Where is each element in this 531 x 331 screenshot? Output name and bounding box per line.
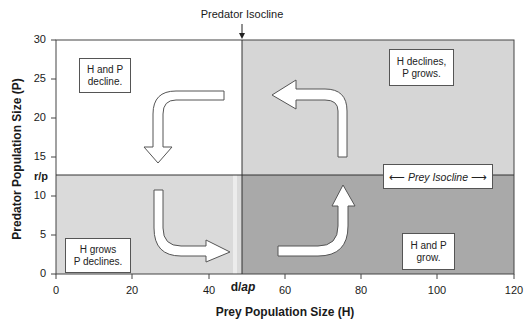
y-tick-30: 30: [30, 33, 46, 45]
top-left-line1: H and P: [87, 64, 123, 76]
y-tick-r-over-p: r/p: [28, 170, 48, 182]
pointer-head-icon: [239, 33, 245, 39]
label-box-bottom-right: H and P grow.: [402, 233, 455, 270]
y-axis-title: Predator Population Size (P): [10, 59, 24, 259]
x-tick-d-over-ap: d/ap: [228, 280, 258, 294]
x-axis-title: Prey Population Size (H): [185, 305, 385, 319]
x-ticks: [56, 274, 514, 279]
y-tick-20: 20: [30, 111, 46, 123]
y-tick-10: 10: [30, 189, 46, 201]
ap-text: ap: [241, 280, 255, 294]
light-strip: [233, 175, 237, 274]
x-tick-40: 40: [199, 284, 219, 296]
top-left-line2: decline.: [88, 76, 122, 88]
bottom-left-line1: H grows: [80, 244, 117, 256]
quadrant-top-right: [242, 40, 514, 175]
top-right-line2: P grows.: [402, 68, 441, 80]
x-tick-80: 80: [351, 284, 371, 296]
x-tick-100: 100: [424, 284, 450, 296]
prey-isocline-label: Prey Isocline: [408, 171, 468, 183]
y-tick-25: 25: [30, 72, 46, 84]
label-box-top-right: H declines, P grows.: [389, 49, 454, 86]
x-tick-0: 0: [46, 284, 66, 296]
bottom-right-line2: grow.: [417, 252, 441, 264]
y-ticks: [51, 40, 56, 274]
predator-isocline-label: Predator Isocline: [190, 8, 294, 20]
left-arrow-icon: ⟵: [389, 171, 405, 183]
prey-isocline-box: ⟵ Prey Isocline ⟶: [383, 164, 493, 189]
right-arrow-icon: ⟶: [471, 171, 487, 183]
x-tick-60: 60: [275, 284, 295, 296]
bottom-left-line2: P declines.: [74, 256, 123, 268]
label-box-top-left: H and P decline.: [79, 58, 131, 93]
x-tick-20: 20: [122, 284, 142, 296]
x-tick-120: 120: [501, 284, 527, 296]
d-over-text: d/: [231, 280, 242, 294]
bottom-right-line1: H and P: [410, 240, 446, 252]
quadrant-bottom-right: [242, 175, 514, 274]
top-right-line1: H declines,: [397, 56, 446, 68]
y-tick-15: 15: [30, 150, 46, 162]
y-tick-0: 0: [30, 267, 46, 279]
label-box-bottom-left: H grows P declines.: [65, 238, 131, 273]
y-tick-5: 5: [30, 228, 46, 240]
